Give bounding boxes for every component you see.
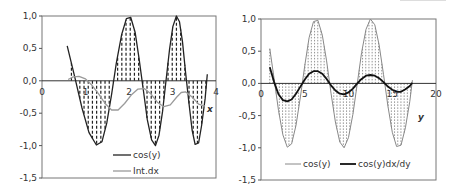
x-tick-label: 3 [170,87,176,97]
x-tick-label: 20 [430,89,442,99]
x-tick-label: 5 [302,89,308,99]
y-tick-label: 0,0 [242,78,257,88]
legend-label: cos(y) [133,150,161,160]
y-tick-label: 0,5 [242,46,256,56]
x-axis-title: x [206,104,214,114]
x-tick-label: 0 [39,87,45,97]
chart-right-cos-vs-y: 1,00,50,0-0,5-1,0-1,505101520ycos(y)cos(… [225,0,451,193]
y-tick-label: -1,5 [19,173,37,183]
y-tick-label: 0,5 [23,43,37,53]
x-axis-title: y [418,112,425,122]
chart-right-svg: 1,00,50,0-0,5-1,0-1,505101520ycos(y)cos(… [225,0,451,193]
x-tick-label: 0 [258,89,264,99]
chart-left-svg: 1,00,50,0-0,5-1,0-1,501234xcos(y)Int.dx [0,0,225,193]
legend-label: cos(y) [303,159,331,169]
legend-label: cos(y)dx/dy [358,159,411,169]
y-tick-label: -0,5 [238,111,256,121]
y-tick-label: -1,0 [238,143,256,153]
y-tick-label: 0,0 [23,76,38,86]
y-tick-label: -1,0 [19,141,37,151]
y-tick-label: -1,5 [238,175,256,185]
x-tick-label: 4 [213,87,219,97]
legend-label: Int.dx [133,166,159,176]
y-tick-label: -0,5 [19,108,37,118]
y-tick-label: 1,0 [242,14,257,24]
x-tick-label: 1 [83,87,89,97]
y-tick-label: 1,0 [23,11,38,21]
chart-left-cos-vs-x: 1,00,50,0-0,5-1,0-1,501234xcos(y)Int.dx [0,0,225,193]
